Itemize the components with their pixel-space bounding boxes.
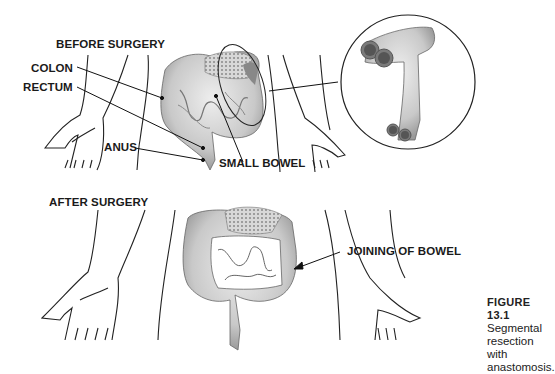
caption-line-3: anastomosis. [487, 361, 555, 374]
before-surgery-title: BEFORE SURGERY [56, 38, 165, 50]
figure-caption: FIGURE 13.1 Segmental resection with ana… [487, 296, 555, 374]
joining-of-bowel-label: JOINING OF BOWEL [347, 245, 461, 257]
anus-label: ANUS [104, 141, 137, 153]
small-bowel-label: SMALL BOWEL [219, 157, 306, 169]
after-surgery-title: AFTER SURGERY [49, 196, 148, 208]
magnified-anastomosis-inset [341, 15, 475, 149]
caption-line-1: Segmental [487, 322, 555, 335]
caption-line-2: resection with [487, 335, 555, 361]
colon-label: COLON [31, 62, 73, 74]
rectum-label: RECTUM [23, 81, 73, 93]
figure-number: FIGURE 13.1 [487, 296, 555, 322]
after-intestines-illustration [183, 207, 296, 350]
before-intestines-illustration [161, 39, 275, 170]
joining-leader-arrow [294, 252, 340, 269]
